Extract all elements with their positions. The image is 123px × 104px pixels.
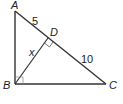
right-angle-marker-d [45,42,54,47]
vertex-label-d: D [50,26,58,38]
triangle-diagram: A B C D 5 10 x [0,0,123,104]
vertex-label-b: B [3,79,10,91]
vertex-label-c: C [109,79,117,91]
segment-label-bd: x [28,46,35,58]
segment-label-dc: 10 [81,53,93,65]
segment-label-ad: 5 [32,15,38,27]
vertex-label-a: A [10,0,18,11]
